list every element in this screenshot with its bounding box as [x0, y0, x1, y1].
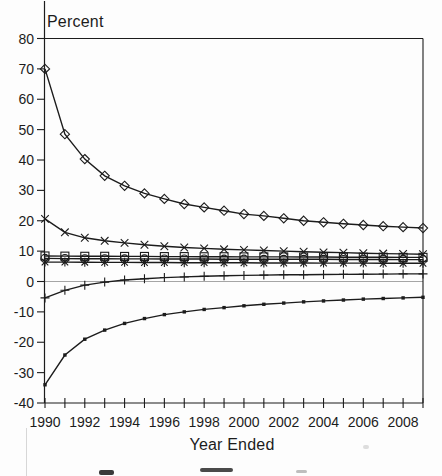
diamond-marker-series-line	[45, 69, 423, 228]
x-tick-label: 1994	[109, 414, 140, 430]
y-axis-ticks: 80706050403020100-10-20-30-40	[14, 31, 45, 412]
y-tick-label: 10	[18, 243, 34, 259]
scan-smudge-artifact	[363, 445, 369, 449]
y-axis-title: Percent	[47, 13, 104, 31]
y-tick-label: -40	[14, 395, 34, 411]
filled-dot-series-line	[45, 297, 423, 385]
axes	[45, 1, 424, 403]
x-tick-label: 2008	[388, 414, 419, 430]
x-tick-label: 2006	[348, 414, 379, 430]
x-tick-label: 1992	[69, 414, 100, 430]
line-chart-figure: 80706050403020100-10-20-30-4019901992199…	[0, 0, 442, 476]
x-tick-label: 1990	[29, 414, 60, 430]
x-tick-label: 2004	[308, 414, 339, 430]
x-tick-label: 2002	[268, 414, 299, 430]
cutoff-caption-fragment	[200, 468, 233, 472]
x-axis-title: Year Ended	[189, 436, 274, 454]
filled-dot-series-markers	[43, 296, 424, 387]
y-tick-label: 0	[26, 274, 34, 290]
x-tick-label: 1996	[149, 414, 180, 430]
y-tick-label: 20	[18, 213, 34, 229]
y-tick-label: 40	[18, 152, 34, 168]
y-tick-label: -20	[14, 334, 34, 350]
x-marker-series-markers	[41, 215, 427, 258]
y-tick-label: 60	[18, 91, 34, 107]
cutoff-caption-fragment	[296, 470, 307, 473]
y-tick-label: 70	[18, 61, 34, 77]
diamond-marker-series-markers	[40, 64, 427, 232]
plus-marker-series-line	[45, 274, 423, 298]
cutoff-caption-fragment	[99, 470, 114, 475]
y-tick-label: -30	[14, 365, 34, 381]
x-tick-label: 2000	[228, 414, 259, 430]
y-tick-label: 30	[18, 182, 34, 198]
scan-edge-artifact	[26, 428, 27, 476]
x-marker-series-line	[45, 219, 423, 254]
chart-plot-canvas: 80706050403020100-10-20-30-4019901992199…	[0, 0, 442, 476]
y-tick-label: 50	[18, 122, 34, 138]
y-tick-label: -10	[14, 304, 34, 320]
x-tick-label: 1998	[189, 414, 220, 430]
y-tick-label: 80	[18, 31, 34, 47]
